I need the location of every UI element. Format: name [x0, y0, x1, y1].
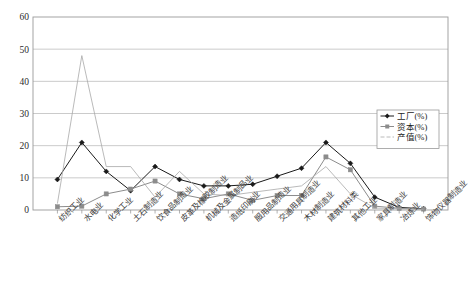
data-point-marker [153, 179, 157, 183]
y-axis-tick-label: 20 [20, 141, 30, 151]
data-point-marker [299, 193, 303, 197]
legend-item-label: 工厂(%) [397, 111, 428, 121]
data-point-marker [80, 204, 84, 208]
chart-legend: 工厂(%)资本(%)产值(%) [377, 110, 439, 149]
data-point-marker [202, 197, 206, 201]
data-point-marker [104, 192, 108, 196]
data-point-marker [55, 205, 59, 209]
data-series-group [55, 56, 426, 212]
x-axis-tickmarks-group [57, 210, 423, 214]
y-axis-tick-label: 60 [20, 12, 30, 22]
legend-item-label: 资本(%) [397, 122, 428, 132]
data-point-marker [348, 168, 352, 172]
data-point-marker [201, 183, 206, 188]
data-point-marker [275, 193, 279, 197]
y-axis-tick-label: 30 [20, 109, 30, 119]
data-point-marker [226, 183, 231, 188]
y-axis-ticks-group: 0102030405060 [20, 12, 30, 215]
legend-item-label: 产值(%) [397, 132, 428, 142]
data-point-marker [129, 187, 133, 191]
series-line-2 [57, 56, 423, 210]
data-point-marker [251, 198, 255, 202]
data-point-marker [177, 192, 181, 196]
y-axis-tick-label: 0 [24, 205, 29, 215]
data-point-marker [324, 155, 328, 159]
y-axis-tick-label: 10 [20, 173, 30, 183]
series-line-0 [57, 142, 423, 208]
y-axis-tick-label: 50 [20, 45, 30, 55]
legend-swatch-marker [385, 125, 389, 129]
y-axis-tick-label: 40 [20, 77, 30, 87]
series-line-1 [57, 157, 423, 209]
data-point-marker [250, 182, 255, 187]
